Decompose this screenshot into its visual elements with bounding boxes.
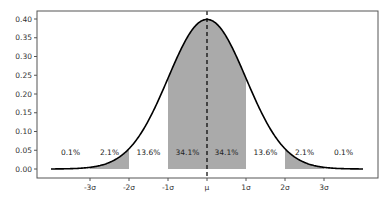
region-label: 0.1% (334, 148, 353, 157)
region-label: 13.6% (254, 148, 278, 157)
region-label: 34.1% (215, 148, 239, 157)
region-label: 34.1% (176, 148, 200, 157)
x-tick-label: -3σ (84, 183, 96, 192)
y-tick-label: 0.05 (15, 146, 32, 155)
region-label: 2.1% (295, 148, 314, 157)
y-tick-label: 0.25 (15, 71, 32, 80)
normal-distribution-chart: 0.1%2.1%13.6%34.1%34.1%13.6%2.1%0.1% 0.0… (0, 0, 389, 201)
x-tick-label: -1σ (162, 183, 174, 192)
y-tick-label: 0.00 (15, 165, 32, 174)
region-label: 0.1% (61, 148, 80, 157)
y-tick-label: 0.35 (15, 33, 32, 42)
x-tick-label: 2σ (280, 183, 290, 192)
y-tick-label: 0.10 (15, 127, 32, 136)
x-tick-label: -2σ (123, 183, 135, 192)
x-tick-label: μ (205, 183, 210, 192)
y-axis: 0.000.050.100.150.200.250.300.350.40 (15, 15, 37, 174)
x-tick-label: 3σ (319, 183, 329, 192)
y-tick-label: 0.20 (15, 90, 32, 99)
region-label: 2.1% (100, 148, 119, 157)
y-tick-label: 0.15 (15, 108, 32, 117)
x-tick-label: 1σ (241, 183, 251, 192)
region-label: 13.6% (137, 148, 161, 157)
y-tick-label: 0.40 (15, 15, 32, 24)
y-tick-label: 0.30 (15, 52, 32, 61)
x-axis: -3σ-2σ-1σμ1σ2σ3σ (84, 178, 329, 192)
